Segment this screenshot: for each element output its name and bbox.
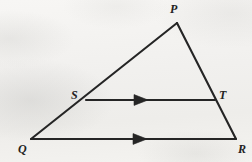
geometry-figure: P Q R S T [0, 0, 252, 162]
vertex-label-p: P [170, 3, 177, 15]
parallel-arrow-QR [133, 134, 147, 145]
parallel-arrow-ST [134, 95, 148, 106]
vertex-label-s: S [71, 89, 78, 101]
triangle-diagram [0, 0, 252, 162]
vertex-label-q: Q [18, 143, 27, 155]
arrowhead-icon [133, 134, 147, 145]
segment-QP [31, 23, 177, 139]
segment-PR [177, 23, 236, 139]
triangle-outline [31, 23, 236, 139]
vertex-label-r: R [238, 143, 246, 155]
arrowhead-icon [134, 95, 148, 106]
vertex-label-t: T [219, 89, 226, 101]
